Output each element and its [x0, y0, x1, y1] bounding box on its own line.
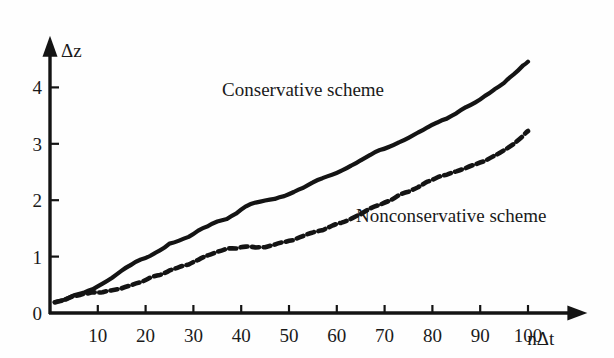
- x-axis-tick-label: 70: [375, 326, 394, 345]
- x-axis-tick-label: 90: [471, 326, 490, 345]
- right-arrow-icon: [567, 306, 587, 321]
- y-axis-title: Δz: [61, 41, 82, 60]
- x-axis-tick-label: 80: [423, 326, 442, 345]
- x-axis-title: nΔt: [527, 329, 554, 348]
- x-axis-tick-label: 50: [280, 326, 299, 345]
- y-axis-tick-label: 3: [24, 134, 42, 153]
- x-axis-tick-label: 60: [327, 326, 346, 345]
- y-axis-tick-label: 2: [24, 191, 42, 210]
- figure-container: 10203040506070809010001234Conservative s…: [0, 0, 614, 358]
- x-axis-tick-label: 40: [232, 326, 251, 345]
- conservative-scheme-label: Conservative scheme: [222, 80, 384, 99]
- up-arrow-icon: [43, 36, 58, 57]
- y-axis-tick-label: 4: [24, 78, 42, 97]
- x-axis-tick-label: 20: [136, 326, 155, 345]
- y-axis-tick-label: 1: [24, 247, 42, 266]
- chart-canvas: [0, 0, 614, 358]
- x-axis-tick-label: 30: [184, 326, 203, 345]
- y-axis-tick-label: 0: [24, 304, 42, 323]
- nonconservative-scheme-label: Nonconservative scheme: [356, 206, 546, 225]
- x-axis-tick-label: 10: [88, 326, 107, 345]
